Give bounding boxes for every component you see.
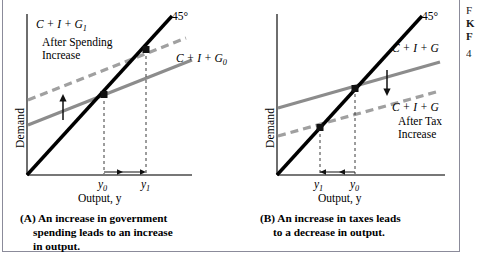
panel-b-equilibrium-point-y1 <box>317 124 324 131</box>
panel-a-y-axis-label: Demand <box>14 108 26 148</box>
edge-cutoff-line-2: K <box>466 17 482 30</box>
panel-a-equilibrium-point-y0 <box>101 91 108 98</box>
panel-b-base-curve-label: C + I + G <box>392 42 439 56</box>
panel-b-y-axis-label: Demand <box>264 108 276 148</box>
panel-b-45-degree-line <box>277 16 422 175</box>
panel-b-xtick-y0: y0 <box>350 178 359 193</box>
edge-cutoff-text: F K F 4 <box>466 4 482 84</box>
panel-b-output-arrow-left <box>320 169 355 175</box>
edge-cutoff-line-4: 4 <box>466 47 482 60</box>
panel-b-x-axis-label: Output, y <box>318 192 361 204</box>
panel-b-equilibrium-point-y0 <box>352 85 359 92</box>
panel-a-shift-arrow-up <box>59 94 66 120</box>
panel-b: Demand y1 y0 Output, y 45° C + I + G C +… <box>240 0 482 264</box>
panel-a-base-demand-curve <box>28 60 192 125</box>
panel-a-x-axis-label: Output, y <box>78 192 121 204</box>
panel-a-base-curve-label: C + I + G0 <box>176 52 227 70</box>
panel-a-output-arrow-right <box>104 169 146 175</box>
panel-a-equilibrium-point-y1 <box>143 46 150 53</box>
panel-a: Demand y0 y1 Output, y 45° C + I + G1 Af… <box>0 0 236 264</box>
edge-cutoff-line-3: F <box>466 30 482 43</box>
panel-b-45-degree-label: 45° <box>422 10 438 22</box>
panel-a-45-degree-label: 45° <box>172 10 188 22</box>
panel-a-xtick-y1: y1 <box>141 178 150 193</box>
edge-cutoff-line-1: F <box>466 4 482 17</box>
panel-b-shift-arrow-down <box>383 70 390 96</box>
panel-a-shifted-curve-label: C + I + G1 After Spending Increase <box>36 18 113 63</box>
figure-container: Demand y0 y1 Output, y 45° C + I + G1 Af… <box>0 0 482 264</box>
panel-a-xtick-y0: y0 <box>98 178 107 193</box>
panel-b-shifted-curve-label: C + I + G After Tax Increase <box>392 101 442 142</box>
panel-b-xtick-y1: y1 <box>314 178 323 193</box>
panel-b-caption: (B) An increase in taxes leads to a decr… <box>260 211 401 239</box>
panel-a-caption: (A) An increase in government spending l… <box>20 211 173 254</box>
panel-b-plot <box>240 0 482 200</box>
